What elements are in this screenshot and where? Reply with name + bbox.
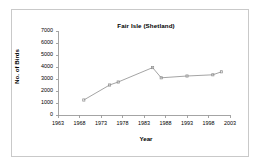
chart-canvas	[0, 0, 260, 166]
chart-plot-stage: Fair Isle (Shetland) No. of Birds Year 0…	[0, 0, 260, 166]
chart-axes	[56, 31, 231, 118]
data-point-marker	[83, 99, 85, 101]
data-series-line	[84, 68, 222, 100]
series-polyline	[84, 68, 222, 100]
data-point-markers	[83, 67, 223, 102]
data-point-marker	[220, 71, 222, 73]
